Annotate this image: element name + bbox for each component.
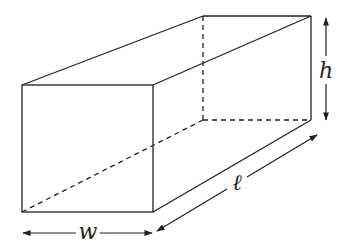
width-label: w (77, 221, 100, 243)
rectangular-prism-diagram (0, 0, 345, 248)
length-arrow-upper (247, 135, 317, 177)
height-label: h (317, 60, 335, 82)
length-label: ℓ (230, 172, 243, 194)
visible-edges (22, 16, 311, 212)
hidden-edges (22, 16, 311, 212)
length-arrow-lower (157, 189, 227, 231)
front-face (22, 85, 153, 212)
